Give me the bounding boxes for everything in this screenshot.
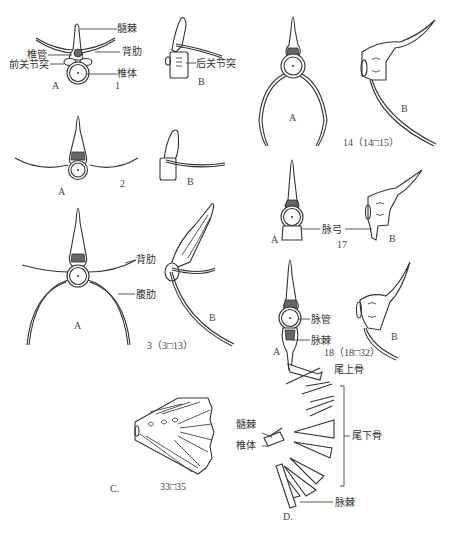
label-hypural: 尾下骨	[352, 430, 382, 441]
view-letter-2a: A	[58, 186, 65, 197]
label-dorsal-rib: 背肋	[122, 46, 142, 57]
caption-vertebra-17: 17	[337, 239, 347, 250]
view-letter-18b: B	[391, 331, 398, 342]
caption-vertebra-18: 18（18□32）	[324, 347, 380, 358]
vertebra-18-lateral-drawing	[357, 262, 411, 360]
view-letter-2b: B	[187, 176, 194, 187]
vertebrae-figure: 髓棘 椎管 前关节突 背肋 椎体 后关节突 背肋 腹肋 脉弓 脉管 脉棘 尾上骨…	[0, 0, 450, 539]
view-letter-14a: A	[289, 112, 296, 123]
vertebrae-drawings	[0, 0, 450, 539]
vertebra-3-lateral-drawing	[165, 204, 234, 346]
vertebra-1-anterior-drawing	[36, 24, 120, 84]
label-centrum: 椎体	[117, 68, 137, 79]
vertebra-17-lateral-drawing	[345, 170, 422, 240]
label-ventral-rib: 腹肋	[136, 289, 156, 300]
caudal-fan-drawing	[135, 398, 214, 474]
vertebra-14-anterior-drawing	[259, 17, 327, 146]
label-dorsal-rib-3: 背肋	[136, 254, 156, 265]
caption-vertebra-2: 2	[120, 178, 125, 189]
label-haemal-arch: 脉弓	[322, 224, 342, 235]
caption-vertebra-33: 33□35	[160, 481, 186, 492]
label-haemal-canal: 脉管	[311, 314, 331, 325]
label-postzygapophysis: 后关节突	[196, 58, 236, 69]
exploded-caudal-drawing	[262, 364, 350, 508]
view-letter-14b: B	[401, 103, 408, 114]
label-prezygapophysis: 前关节突	[9, 59, 49, 70]
caption-vertebra-3: 3（3□13）	[147, 340, 193, 351]
label-centrum-d: 椎体	[236, 440, 256, 451]
label-epural: 尾上骨	[334, 364, 364, 375]
view-letter-17b: B	[389, 233, 396, 244]
caption-vertebra-14: 14（14□15）	[343, 137, 399, 148]
view-letter-17a: A	[271, 234, 278, 245]
vertebra-14-lateral-drawing	[361, 20, 436, 146]
label-haemal-spine-d: 脉棘	[335, 497, 355, 508]
view-letter-1b: B	[198, 76, 205, 87]
caption-vertebra-1: 1	[115, 80, 120, 91]
view-letter-c: C.	[110, 483, 119, 494]
vertebra-18-anterior-drawing	[279, 260, 310, 370]
label-haemal-spine: 脉棘	[311, 335, 331, 346]
view-letter-3a: A	[74, 320, 81, 331]
view-letter-d: D.	[283, 511, 293, 522]
view-letter-18a: A	[273, 346, 280, 357]
vertebra-17-anterior-drawing	[281, 160, 320, 240]
label-neural-spine-d: 髓棘	[236, 419, 256, 430]
vertebra-2-anterior-drawing	[15, 116, 138, 180]
label-neural-spine: 髓棘	[117, 23, 137, 34]
view-letter-3b: B	[209, 312, 216, 323]
vertebra-2-lateral-drawing	[160, 130, 225, 180]
view-letter-1a: A	[52, 80, 59, 91]
